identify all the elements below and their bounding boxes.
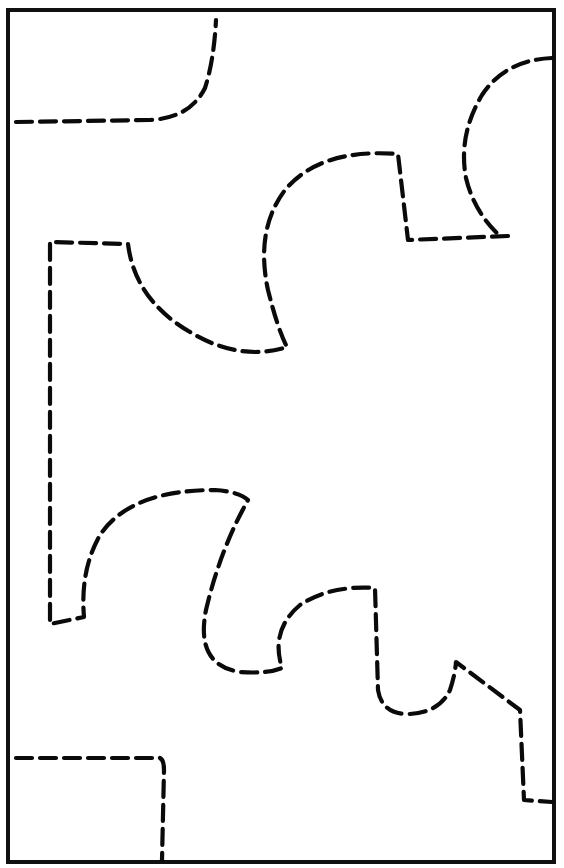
cut-line-top-left-corner (16, 20, 216, 122)
cut-line-top-right-semicircle (464, 58, 552, 236)
cut-pattern-diagram (0, 0, 564, 868)
cut-line-bottom-left-corner (16, 758, 164, 860)
sheet-frame (8, 10, 554, 862)
cut-line-puzzle-path (50, 153, 552, 802)
